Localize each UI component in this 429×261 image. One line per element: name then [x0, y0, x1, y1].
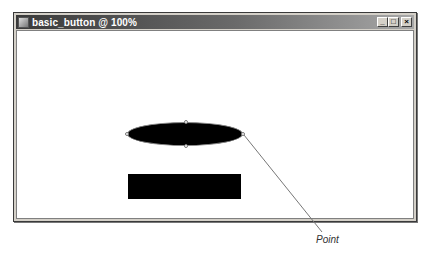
callout-leader-line — [0, 0, 429, 261]
callout-label: Point — [316, 234, 339, 245]
